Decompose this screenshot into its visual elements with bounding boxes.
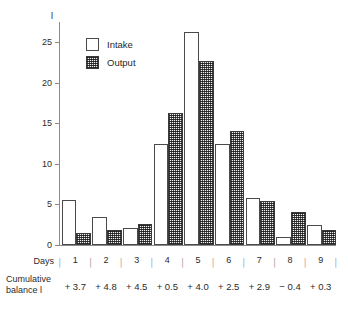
y-axis-tick-label: 25 [12,38,52,47]
legend-swatch-intake-icon [86,38,99,51]
bar-output-day-8 [291,212,306,245]
x-axis-day-label-6: 6 [219,255,239,266]
bar-intake-day-1 [62,200,77,245]
y-axis-tick-label: 20 [12,79,52,88]
legend-label-output: Output [107,58,136,68]
cumulative-balance-day-7: + 2.9 [242,281,276,292]
cumulative-balance-day-5: + 4.0 [181,281,215,292]
bar-output-day-9 [322,230,337,245]
x-axis-line [59,245,336,246]
legend-item-output: Output [86,56,136,69]
x-axis-tick-mark: │ [302,259,308,267]
chart-legend: Intake Output [86,38,136,74]
bar-intake-day-9 [307,225,322,245]
legend-swatch-output-icon [86,56,99,69]
x-axis-tick-mark: │ [57,259,63,267]
y-axis-tick-label: 15 [12,119,52,128]
bar-output-day-6 [230,131,245,245]
bar-output-day-4 [168,113,183,245]
x-axis-day-label-7: 7 [249,255,269,266]
cumulative-balance-day-8: − 0.4 [273,281,307,292]
days-row-label: Days [6,256,54,267]
intake-output-bar-chart: l 2520151050 Intake Output Days Cumulati… [0,0,348,312]
bar-intake-day-8 [276,237,291,245]
bar-output-day-1 [76,233,91,245]
cumulative-balance-day-6: + 2.5 [212,281,246,292]
legend-label-intake: Intake [107,40,133,50]
balance-label-line2: balance l [6,285,42,295]
cumulative-balance-day-4: + 0.5 [150,281,184,292]
bar-intake-day-7 [246,198,261,245]
legend-item-intake: Intake [86,38,136,51]
x-axis-tick-mark: │ [149,259,155,267]
bar-output-day-2 [107,230,122,245]
bar-intake-day-3 [123,228,138,245]
bar-output-day-7 [260,201,275,245]
x-axis-day-label-8: 8 [280,255,300,266]
bar-intake-day-4 [154,144,169,245]
y-axis-tick-label: 10 [12,160,52,169]
bar-intake-day-6 [215,144,230,245]
x-axis-tick-mark: │ [333,259,339,267]
x-axis-tick-mark: │ [272,259,278,267]
x-axis-day-label-2: 2 [96,255,116,266]
cumulative-balance-day-2: + 4.8 [89,281,123,292]
y-axis-unit-label: l [51,12,53,21]
bar-output-day-3 [138,224,153,245]
x-axis-tick-mark: │ [241,259,247,267]
balance-label-line1: Cumulative [6,274,51,284]
bar-intake-day-5 [184,32,199,245]
x-axis-tick-mark: │ [88,259,94,267]
x-axis-day-label-4: 4 [157,255,177,266]
x-axis-day-label-3: 3 [127,255,147,266]
x-axis-tick-mark: │ [210,259,216,267]
x-axis-tick-mark: │ [180,259,186,267]
x-axis-day-label-1: 1 [65,255,85,266]
x-axis-day-label-9: 9 [311,255,331,266]
bar-intake-day-2 [92,217,107,245]
cumulative-balance-day-3: + 4.5 [120,281,154,292]
x-axis-day-label-5: 5 [188,255,208,266]
cumulative-balance-day-1: + 3.7 [58,281,92,292]
cumulative-balance-day-9: + 0.3 [304,281,338,292]
bar-output-day-5 [199,61,214,245]
y-axis-tick-label: 0 [12,241,52,250]
y-axis-tick-label: 5 [12,200,52,209]
x-axis-tick-mark: │ [118,259,124,267]
y-axis-tick-mark [55,245,60,246]
